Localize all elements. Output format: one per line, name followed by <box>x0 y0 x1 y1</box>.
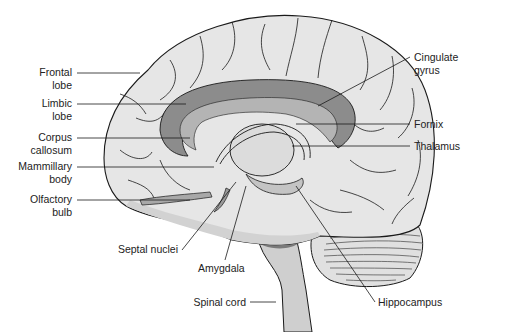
label-frontal-lobe-line2: lobe <box>18 79 72 92</box>
label-corpus-callosum-line1: Corpus <box>10 131 72 144</box>
label-limbic-lobe: Limbic lobe <box>18 97 72 122</box>
label-olfactory-bulb-line2: bulb <box>10 206 72 219</box>
label-limbic-lobe-line2: lobe <box>18 110 72 123</box>
label-frontal-lobe: Frontal lobe <box>18 66 72 91</box>
label-mammillary-body-line2: body <box>4 173 72 186</box>
label-spinal-cord: Spinal cord <box>176 296 246 309</box>
label-septal-nuclei: Septal nuclei <box>110 243 178 256</box>
label-thalamus: Thalamus <box>414 140 460 153</box>
label-mammillary-body-line1: Mammillary <box>4 160 72 173</box>
label-hippocampus: Hippocampus <box>378 296 442 309</box>
label-cingulate-gyrus: Cingulate gyrus <box>414 51 458 76</box>
label-amygdala-text: Amygdala <box>198 262 245 274</box>
label-mammillary-body: Mammillary body <box>4 160 72 185</box>
label-cingulate-gyrus-line2: gyrus <box>414 64 458 77</box>
brain-diagram <box>0 0 507 332</box>
label-limbic-lobe-line1: Limbic <box>18 97 72 110</box>
label-septal-nuclei-text: Septal nuclei <box>118 243 178 255</box>
label-fornix: Fornix <box>414 118 443 131</box>
label-olfactory-bulb-line1: Olfactory <box>10 193 72 206</box>
label-amygdala: Amygdala <box>198 262 245 275</box>
spinal-cord-shape <box>252 234 312 332</box>
label-corpus-callosum: Corpus callosum <box>10 131 72 156</box>
label-frontal-lobe-line1: Frontal <box>18 66 72 79</box>
label-corpus-callosum-line2: callosum <box>10 144 72 157</box>
label-spinal-cord-text: Spinal cord <box>193 296 246 308</box>
label-hippocampus-text: Hippocampus <box>378 296 442 308</box>
label-olfactory-bulb: Olfactory bulb <box>10 193 72 218</box>
label-cingulate-gyrus-line1: Cingulate <box>414 51 458 64</box>
label-fornix-text: Fornix <box>414 118 443 131</box>
label-thalamus-text: Thalamus <box>414 140 460 153</box>
